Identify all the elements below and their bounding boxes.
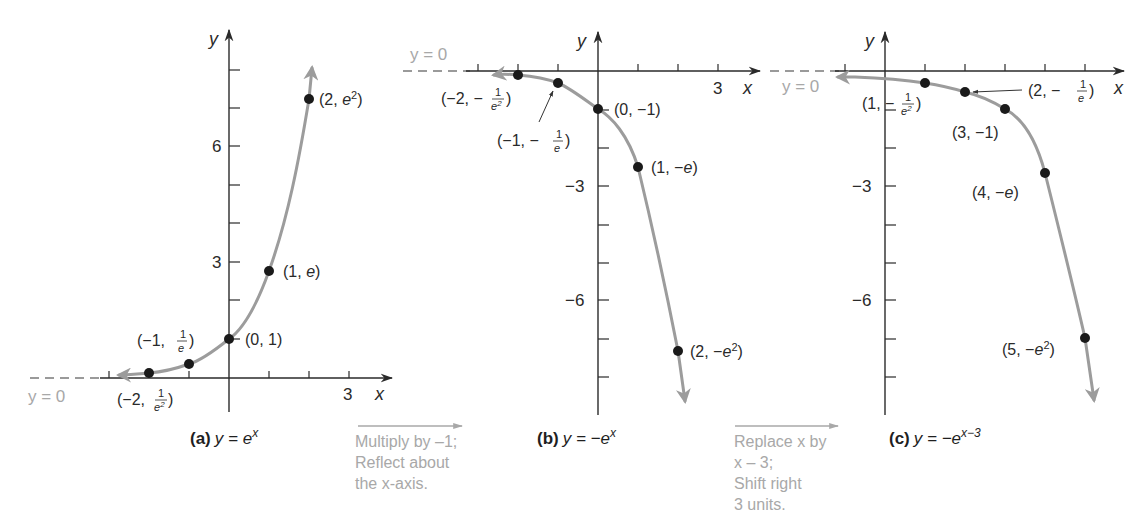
asymptote-label: y = 0 [410,45,447,64]
panel-c: −3 −6 x y y = 0 (1, − 1 e2 ) (2, − 1 e )… [770,31,1124,448]
svg-text:1: 1 [905,91,911,103]
svg-text:): ) [1089,82,1094,99]
panel-b: −3 −6 3 x y y = 0 (−2, − 1 e2 ) (−1, − 1… [403,31,760,448]
y-ticks [598,110,609,377]
point-2 [304,94,314,104]
point-neg1 [184,359,194,369]
svg-text:1: 1 [495,86,501,98]
y-tick-label-3: 3 [212,253,221,272]
label-point-neg2: (−2, − 1 e2 ) [441,86,511,112]
point-neg2 [144,368,154,378]
transform-note-1: Multiply by –1; Reflect about the x-axis… [355,426,462,492]
svg-text:(1, −: (1, − [862,95,894,112]
y-axis-label: y [207,29,219,49]
point-0 [224,334,234,344]
svg-text:): ) [565,132,570,149]
point-5 [1080,333,1090,343]
svg-text:e: e [178,342,184,354]
point-neg2 [513,70,523,80]
svg-text:1: 1 [180,328,186,340]
figure-canvas: 6 3 3 x y y = 0 (−2, 1 e2 ) (−1, 1 e ) (… [0,0,1132,525]
point-neg1 [553,78,563,88]
svg-text:(−1, −: (−1, − [497,132,539,149]
label-point-4: (4, −e) [972,184,1019,201]
svg-text:e2: e2 [154,400,165,413]
x-axis-label: x [1113,78,1124,98]
label-point-neg1: (−1, − 1 e ) [497,128,570,154]
x-axis-label: x [374,384,385,404]
y-ticks [885,110,896,377]
svg-text:1: 1 [158,387,164,399]
transform-2-line-2: x – 3; [734,454,773,471]
caption-c: (c)y = −ex−3 [889,426,981,448]
point-3 [1000,104,1010,114]
svg-text:(2, −: (2, − [1028,82,1060,99]
transform-2-line-3: Shift right [734,475,802,492]
point-1 [264,266,274,276]
label-point-neg1: (−1, 1 e ) [137,328,194,354]
transform-2-line-1: Replace x by [734,433,827,450]
y-axis-label: y [575,31,587,51]
svg-text:(−1,: (−1, [137,332,165,349]
svg-text:): ) [506,90,511,107]
asymptote-label: y = 0 [28,387,65,406]
x-tick-label-3: 3 [713,79,722,98]
svg-text:e: e [554,142,560,154]
svg-text:e: e [1078,92,1084,104]
y-tick-label-neg6: −6 [852,291,871,310]
y-tick-label-neg3: −3 [565,177,584,196]
svg-text:): ) [916,95,921,112]
label-point-1: (1, e) [283,263,320,280]
svg-text:): ) [189,332,194,349]
label-point-3: (3, −1) [952,124,999,141]
point-2 [960,87,970,97]
svg-text:e2: e2 [491,99,502,112]
label-point-neg2: (−2, 1 e2 ) [117,387,173,413]
svg-text:1: 1 [1080,78,1086,90]
label-point-0: (0, −1) [614,101,661,118]
label-point-2: (2, −e2) [690,341,743,360]
asymptote-label: y = 0 [782,77,819,96]
pointer-arrow [539,91,553,122]
x-axis-label: x [742,78,753,98]
label-point-1: (1, − 1 e2 ) [862,91,921,117]
svg-text:(−2,: (−2, [117,391,145,408]
svg-text:): ) [168,391,173,408]
curve-shifted-down-arrow [1085,338,1094,400]
caption-b: (b)y = −ex [537,426,617,448]
y-tick-label-neg6: −6 [565,291,584,310]
point-0 [593,104,603,114]
svg-text:1: 1 [556,128,562,140]
x-tick-label-3: 3 [343,385,352,404]
y-ticks [229,70,240,339]
label-point-5: (5, −e2) [1002,339,1055,358]
label-point-2: (2, − 1 e ) [1028,78,1094,104]
curve-shifted [838,77,1085,338]
y-axis-label: y [863,31,875,51]
svg-text:e2: e2 [901,104,912,117]
curve-neg-exp-down-arrow [678,351,685,401]
transform-1-line-2: Reflect about [355,454,450,471]
label-point-1: (1, −e) [651,159,698,176]
transform-2-line-4: 3 units. [734,496,786,513]
point-4 [1040,168,1050,178]
point-2 [673,346,683,356]
y-tick-label-6: 6 [212,137,221,156]
x-ticks [845,64,1085,71]
caption-a: (a)y = ex [190,426,259,448]
label-point-0: (0, 1) [245,331,282,348]
pointer-arrow [973,90,1022,92]
y-tick-label-neg3: −3 [852,177,871,196]
label-point-2: (2, e2) [319,89,362,108]
point-1 [633,162,643,172]
transform-note-2: Replace x by x – 3; Shift right 3 units. [734,426,838,513]
point-1 [920,78,930,88]
panel-a: 6 3 3 x y y = 0 (−2, 1 e2 ) (−1, 1 e ) (… [28,29,392,448]
transform-1-line-1: Multiply by –1; [355,433,457,450]
transform-1-line-3: the x-axis. [355,475,428,492]
svg-text:(−2, −: (−2, − [441,90,483,107]
